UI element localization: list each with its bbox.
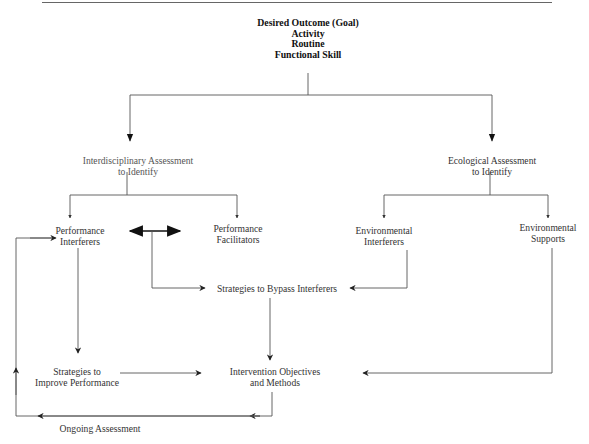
node-line: and Methods — [230, 377, 320, 388]
node-line: Improve Performance — [35, 377, 119, 388]
node-line: Interferers — [55, 236, 104, 247]
node-line: to Identify — [83, 166, 194, 177]
performance-interferers-node: Performance Interferers — [55, 225, 104, 247]
node-line: Interdisciplinary Assessment — [83, 155, 194, 166]
goal-line: Routine — [257, 39, 359, 50]
node-line: Environmental — [355, 225, 412, 236]
node-line: Strategies to Bypass Interferers — [217, 283, 337, 294]
node-line: to Identify — [448, 166, 536, 177]
environmental-supports-node: Environmental Supports — [519, 222, 576, 244]
node-line: Performance — [213, 223, 262, 234]
node-line: Ecological Assessment — [448, 155, 536, 166]
ongoing-assessment-label: Ongoing Assessment — [60, 423, 141, 434]
node-line: Environmental — [519, 222, 576, 233]
interdisciplinary-assessment-node: Interdisciplinary Assessment to Identify — [83, 155, 194, 177]
node-line: Performance — [55, 225, 104, 236]
goal-node: Desired Outcome (Goal) Activity Routine … — [257, 18, 359, 60]
performance-facilitators-node: Performance Facilitators — [213, 223, 262, 245]
strategies-bypass-node: Strategies to Bypass Interferers — [217, 283, 337, 294]
node-line: Ongoing Assessment — [60, 423, 141, 434]
node-line: Interferers — [355, 236, 412, 247]
goal-line: Desired Outcome (Goal) — [257, 18, 359, 29]
node-line: Supports — [519, 233, 576, 244]
strategies-improve-node: Strategies to Improve Performance — [35, 366, 119, 388]
goal-line: Functional Skill — [257, 50, 359, 61]
ecological-assessment-node: Ecological Assessment to Identify — [448, 155, 536, 177]
node-line: Intervention Objectives — [230, 366, 320, 377]
intervention-node: Intervention Objectives and Methods — [230, 366, 320, 388]
environmental-interferers-node: Environmental Interferers — [355, 225, 412, 247]
node-line: Facilitators — [213, 234, 262, 245]
node-line: Strategies to — [35, 366, 119, 377]
